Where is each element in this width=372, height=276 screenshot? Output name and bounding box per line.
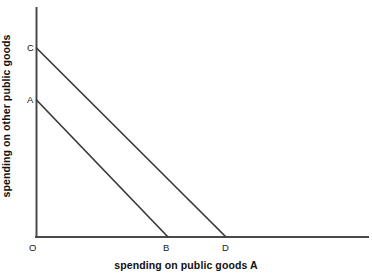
chart-canvas: C A O B D spending on public goods A spe… [0, 0, 372, 276]
point-label-c: C [27, 43, 34, 53]
x-axis-title: spending on public goods A [0, 259, 372, 271]
point-label-b: B [163, 243, 169, 253]
point-label-d: D [222, 243, 229, 253]
budget-line-cd [37, 48, 227, 237]
origin-label: O [29, 243, 36, 253]
budget-line-ab [37, 100, 169, 237]
point-label-a: A [27, 95, 33, 105]
y-axis-title: spending on other public goods [0, 0, 12, 254]
y-axis-title-wrap: spending on other public goods [0, 0, 16, 276]
budget-line-diagram [0, 0, 372, 276]
